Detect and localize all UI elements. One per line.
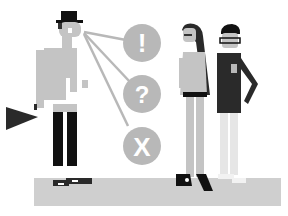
svg-text:X: X [133,132,151,162]
bubble-connectors [84,32,130,126]
bubble-question: ? [123,75,161,113]
svg-text:?: ? [135,81,150,108]
woman [176,24,213,191]
bubble-cross: X [123,127,161,165]
man-with-glasses [217,24,258,183]
man-with-hat [6,11,92,186]
svg-text:!: ! [138,28,147,58]
illustration: ! ? X [0,0,288,216]
megaphone-icon [6,107,38,130]
bubble-exclamation: ! [123,24,161,62]
